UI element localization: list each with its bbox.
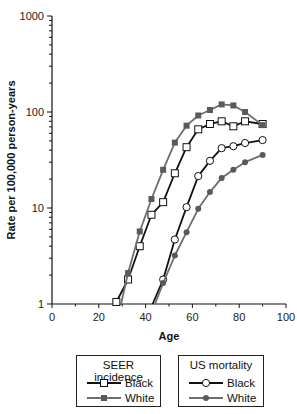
data-point [195,126,202,133]
x-tick-label: 100 [277,311,295,323]
legend-entry-seer-black: Black [77,376,160,390]
data-point [171,170,178,177]
data-point [137,228,143,234]
series-us-mortality-black [153,136,267,304]
x-tick-label: 20 [93,311,105,323]
series-seer-incidence-white [121,101,266,304]
y-tick-label: 1 [38,298,44,310]
axes: 0204060801001101001000 [20,10,296,323]
data-point [207,107,213,113]
data-point [260,152,266,158]
data-point [207,189,213,195]
open-circle-marker-icon [189,376,223,390]
filled-circle-marker-icon [189,391,223,405]
data-point [184,123,190,129]
data-point [242,109,248,115]
data-point [218,145,225,152]
data-point [241,139,248,146]
data-point [206,157,213,164]
data-point [113,298,120,305]
x-tick-label: 0 [49,311,55,323]
legend-label-white: White [227,391,256,405]
data-point [160,199,167,206]
legend-entry-us-black: Black [179,376,263,390]
data-point [183,204,190,211]
x-tick-label: 80 [233,311,245,323]
filled-square-marker-icon [87,391,121,405]
legend-label-black: Black [125,376,153,390]
open-square-marker-icon [87,376,121,390]
y-tick-label: 100 [26,106,44,118]
data-point [125,270,131,276]
data-point [242,159,248,165]
data-point [206,120,213,127]
legend-entry-us-white: White [179,391,263,405]
legend-label-white: White [125,391,154,405]
data-series [113,101,266,305]
data-point [172,253,178,259]
data-point [230,167,236,173]
y-axis-title: Rate per 100,000 person-years [5,81,17,240]
data-point [230,123,237,130]
x-tick-label: 40 [139,311,151,323]
data-point [160,167,166,173]
data-point [160,280,166,286]
data-point [172,140,178,146]
data-point [195,206,201,212]
data-point [259,136,266,143]
data-point [184,229,190,235]
legend-us-mortality: US mortality Black White [178,355,264,407]
data-point [136,243,143,250]
legend-entry-seer-white: White [77,391,160,405]
data-point [183,144,190,151]
data-point [230,143,237,150]
x-tick-label: 60 [186,311,198,323]
legend-title-us: US mortality [179,359,263,371]
data-point [219,101,225,107]
data-point [230,102,236,108]
data-point [148,196,154,202]
data-point [195,172,202,179]
legend-seer-incidence: SEER incidence Black White [76,355,161,407]
data-point [171,236,178,243]
y-tick-label: 10 [32,202,44,214]
data-point [242,118,249,125]
data-point [260,122,266,128]
data-point [195,112,201,118]
x-axis-title: Age [159,330,180,342]
data-point [148,211,155,218]
data-point [219,175,225,181]
legend-label-black: Black [227,376,255,390]
y-tick-label: 1000 [20,10,44,22]
chart-plot: 0204060801001101001000 Age Rate per 100,… [0,0,297,350]
data-point [218,118,225,125]
